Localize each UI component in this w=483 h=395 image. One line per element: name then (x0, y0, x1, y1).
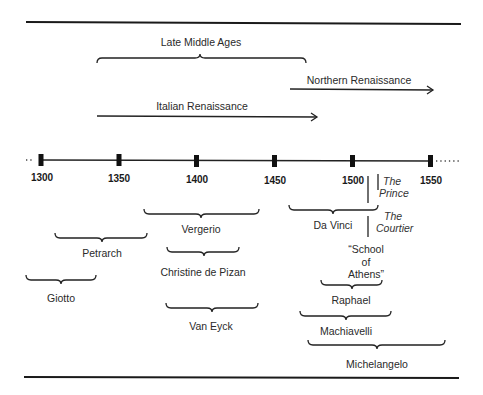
tick-1400 (194, 155, 199, 167)
label-italian-renaissance: Italian Renaissance (156, 101, 248, 112)
label-machiavelli: Machiavelli (320, 326, 372, 337)
label-michelangelo: Michelangelo (346, 359, 408, 370)
brace-giotto (26, 275, 96, 284)
tick-1550 (428, 155, 433, 167)
label-raphael: Raphael (331, 295, 370, 306)
bottom-rule (24, 377, 459, 378)
label-northern-renaissance: Northern Renaissance (307, 75, 411, 86)
year-1300: 1300 (31, 173, 53, 183)
year-1550: 1550 (420, 176, 442, 186)
label-late-middle-ages: Late Middle Ages (161, 37, 242, 48)
label-giotto: Giotto (47, 293, 75, 304)
brace-van-eyck (166, 303, 258, 312)
tick-1350 (117, 154, 122, 166)
arrow-italian-renaissance (97, 113, 317, 121)
brace-raphael (321, 280, 382, 289)
arrow-northern-renaissance (290, 86, 433, 94)
tick-1450 (272, 155, 277, 167)
brace-late-middle-ages (97, 54, 306, 63)
time-axis (26, 154, 460, 167)
label-vergerio: Vergerio (181, 224, 220, 235)
brace-vergerio (144, 209, 259, 218)
brace-petrarch (55, 233, 147, 242)
label-da-vinci: Da Vinci (314, 220, 353, 231)
brace-machiavelli (300, 311, 391, 320)
year-1450: 1450 (264, 176, 286, 186)
brace-michelangelo (308, 340, 445, 349)
top-rule (26, 22, 461, 24)
label-christine-de-pizan: Christine de Pizan (160, 267, 245, 278)
label-petrarch: Petrarch (82, 248, 122, 259)
tick-1500 (350, 155, 355, 167)
year-1400: 1400 (186, 175, 208, 185)
year-1500: 1500 (342, 176, 364, 186)
brace-christine (167, 247, 239, 256)
brace-da-vinci (289, 205, 378, 214)
label-van-eyck: Van Eyck (189, 321, 233, 332)
year-1350: 1350 (108, 174, 130, 184)
label-school-of-athens: “School of Athens” (348, 243, 384, 281)
tick-1300 (39, 154, 44, 166)
label-the-courtier: The Courtier (384, 210, 413, 234)
label-the-prince: The Prince (383, 175, 409, 199)
timeline-graphics (0, 0, 483, 395)
